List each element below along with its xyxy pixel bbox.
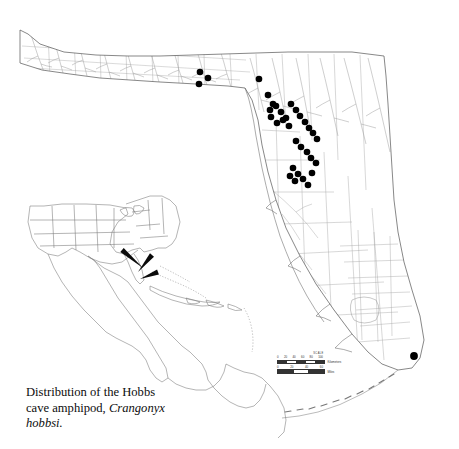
caption-line-2: cave amphipod, [26,401,109,415]
scale-row-kilometers: 0 20 40 60 80 100 Kilometers [277,356,351,364]
distribution-map-figure: SCALE 0 20 40 60 80 100 Kilometers [0,0,459,449]
figure-caption: Distribution of the Hobbs cave amphipod,… [26,385,226,432]
inset-arrow [138,253,154,272]
scale-bar-km [277,360,325,365]
map-scale-bar: SCALE 0 20 40 60 80 100 Kilometers [277,352,351,375]
scale-bar-mi [277,369,325,374]
scale-row-miles: 0 20 40 60 Miles [277,366,351,374]
inset-locator-map [0,0,459,449]
scale-unit-miles: Miles [328,371,335,374]
scale-unit-kilometers: Kilometers [328,361,342,364]
caption-species-epithet: hobbsi. [26,416,63,430]
caption-species-genus: Crangonyx [109,401,165,415]
inset-arrow [120,248,143,268]
caption-line-1: Distribution of the Hobbs [26,385,155,399]
